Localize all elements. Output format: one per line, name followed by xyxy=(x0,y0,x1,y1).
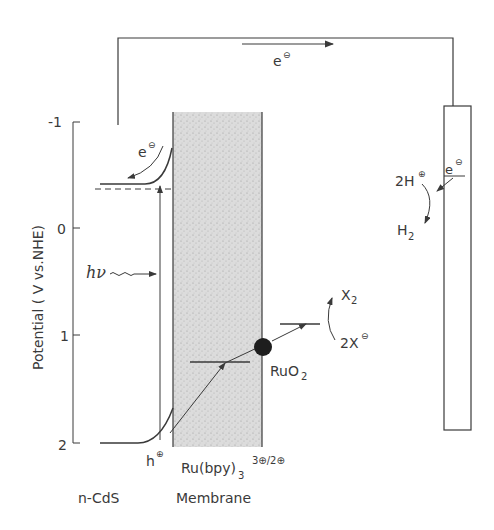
svg-text:h: h xyxy=(146,453,155,469)
svg-text:2X: 2X xyxy=(340,335,359,351)
semiconductor-label: n-CdS xyxy=(78,490,120,506)
svg-text:Ru(bpy): Ru(bpy) xyxy=(181,460,236,476)
oxidation-arrow xyxy=(272,324,306,341)
ruo2-catalyst-particle xyxy=(254,338,272,356)
cathode-electron-label: e ⊖ xyxy=(445,157,463,177)
tick-label-minus1: -1 xyxy=(48,114,62,130)
svg-text:⊖: ⊖ xyxy=(361,331,369,341)
svg-text:⊖: ⊖ xyxy=(283,50,291,60)
circuit-electron-label: e ⊖ xyxy=(273,50,291,69)
h-nu-label: hν xyxy=(86,263,106,282)
svg-text:3: 3 xyxy=(238,470,244,481)
svg-text:⊖: ⊖ xyxy=(148,140,156,150)
svg-text:2: 2 xyxy=(301,371,307,382)
tick-label-1: 1 xyxy=(60,328,69,344)
x-oxidation-curve-arrow xyxy=(328,298,335,340)
membrane-region xyxy=(173,112,262,447)
ru-complex-label: Ru(bpy) 3 3⊕/2⊕ xyxy=(181,455,285,481)
counter-electrode xyxy=(444,106,471,430)
potential-axis xyxy=(73,122,80,443)
photoelectrochemical-diagram: e ⊖ -1 0 1 2 Potential ( V vs.NHE) e ⊖ h… xyxy=(0,0,494,530)
photon-wavy-arrow xyxy=(110,273,134,276)
svg-text:2: 2 xyxy=(408,231,414,242)
x2-label: X 2 xyxy=(341,287,357,306)
cathode-electron-arrow xyxy=(437,178,453,191)
svg-text:H: H xyxy=(397,222,408,238)
svg-text:⊖: ⊖ xyxy=(455,157,463,167)
svg-text:2H: 2H xyxy=(395,173,414,189)
h2-evolution-curve-arrow xyxy=(422,184,430,223)
svg-text:X: X xyxy=(341,287,351,303)
h2-label: H 2 xyxy=(397,222,414,242)
hole-label: h ⊕ xyxy=(146,449,164,469)
ruo2-label: RuO 2 xyxy=(270,363,307,382)
svg-text:⊕: ⊕ xyxy=(418,169,426,179)
two-x-minus-label: 2X ⊖ xyxy=(340,331,369,351)
conduction-band-edge xyxy=(100,148,172,184)
svg-text:e: e xyxy=(138,144,147,160)
svg-text:3⊕/2⊕: 3⊕/2⊕ xyxy=(252,455,285,466)
svg-text:2: 2 xyxy=(351,295,357,306)
tick-label-0: 0 xyxy=(57,221,66,237)
svg-text:e: e xyxy=(445,162,453,177)
cds-electron-label: e ⊖ xyxy=(138,140,156,160)
tick-label-2: 2 xyxy=(58,437,67,453)
diagram-canvas: e ⊖ -1 0 1 2 Potential ( V vs.NHE) e ⊖ h… xyxy=(0,0,494,530)
axis-title: Potential ( V vs.NHE) xyxy=(30,225,46,370)
svg-text:e: e xyxy=(273,53,282,69)
svg-text:⊕: ⊕ xyxy=(156,449,164,459)
membrane-label: Membrane xyxy=(176,490,251,506)
svg-text:RuO: RuO xyxy=(270,363,299,379)
two-h-plus-label: 2H ⊕ xyxy=(395,169,426,189)
valence-band-edge xyxy=(100,408,173,443)
